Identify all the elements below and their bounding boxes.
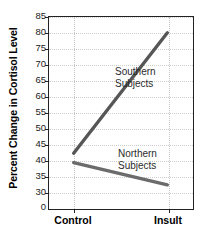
- y-axis-title: Percent Change in Cortisol Level: [6, 13, 20, 203]
- y-tick-label-30: 30: [22, 187, 46, 197]
- y-tick-label-35: 35: [22, 171, 46, 181]
- series-annotation-southern: Southern Subjects: [115, 66, 156, 89]
- x-tick-mark-insult: [169, 209, 170, 213]
- y-tick-label-50: 50: [22, 123, 46, 133]
- y-tick-label-55: 55: [22, 107, 46, 117]
- data-series-layer: [49, 17, 193, 209]
- series-line-southern-subjects: [74, 33, 168, 153]
- y-tick-label-65: 65: [22, 75, 46, 85]
- cortisol-line-chart: Percent Change in Cortisol Level 85 80 7…: [0, 0, 208, 239]
- series-annotation-southern-line2: Subjects: [115, 78, 156, 90]
- x-axis-label-insult: Insult: [138, 214, 198, 227]
- series-annotation-northern-line1: Northern: [118, 148, 157, 160]
- x-tick-mark-control: [74, 209, 75, 213]
- x-axis-label-control: Control: [43, 214, 103, 227]
- y-tick-label-0: 0: [22, 202, 46, 212]
- plot-area: [48, 16, 194, 210]
- y-tick-label-60: 60: [22, 91, 46, 101]
- y-tick-label-75: 75: [22, 43, 46, 53]
- y-tick-label-40: 40: [22, 155, 46, 165]
- y-tick-label-70: 70: [22, 59, 46, 69]
- series-annotation-northern-line2: Subjects: [118, 160, 157, 172]
- y-tick-label-45: 45: [22, 139, 46, 149]
- y-tick-label-85: 85: [22, 11, 46, 21]
- y-axis-tick-labels: 85 80 75 70 65 60 55 50 45 40 35 30 0: [22, 0, 46, 239]
- series-annotation-northern: Northern Subjects: [118, 148, 157, 171]
- series-annotation-southern-line1: Southern: [115, 66, 156, 78]
- y-tick-label-80: 80: [22, 27, 46, 37]
